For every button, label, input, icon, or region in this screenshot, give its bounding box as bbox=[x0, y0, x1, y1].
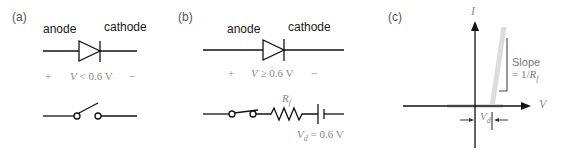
diode-symbol-b bbox=[203, 39, 344, 61]
equivalent-circuit-b bbox=[203, 104, 344, 124]
iv-characteristic-graph bbox=[403, 21, 531, 148]
open-switch-a bbox=[43, 103, 137, 119]
diode-symbol-a bbox=[43, 41, 137, 62]
circuit-drawing bbox=[0, 0, 563, 157]
